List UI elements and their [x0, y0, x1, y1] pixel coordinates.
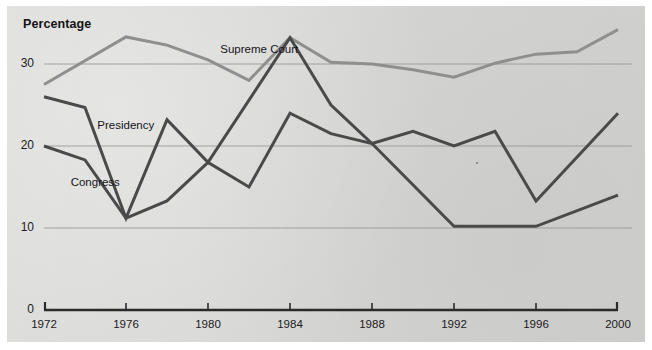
- y-axis-title: Percentage: [23, 17, 91, 31]
- series-line-supreme-court: [44, 30, 618, 85]
- x-axis-tick-label-1984: 1984: [267, 318, 313, 330]
- series-label-congress: Congress: [71, 176, 120, 188]
- y-axis-tick-label-30: 30: [8, 56, 34, 70]
- series-label-supreme-court: Supreme Court: [220, 43, 298, 55]
- x-axis-tick-label-1972: 1972: [21, 318, 67, 330]
- chart-page: Percentage 0102030 197219761980198419881…: [0, 0, 652, 350]
- series-label-presidency: Presidency: [97, 119, 154, 131]
- x-axis-tick-label-1992: 1992: [431, 318, 477, 330]
- y-axis-tick-label-0: 0: [8, 302, 34, 316]
- x-axis-tick-label-1980: 1980: [185, 318, 231, 330]
- scan-speck: [476, 162, 478, 164]
- x-axis-tick-label-1996: 1996: [513, 318, 559, 330]
- x-axis-tick-label-1976: 1976: [103, 318, 149, 330]
- y-axis-tick-label-10: 10: [8, 220, 34, 234]
- x-axis-tick-label-1988: 1988: [349, 318, 395, 330]
- x-axis-tick-label-2000: 2000: [595, 318, 641, 330]
- y-axis-tick-label-20: 20: [8, 138, 34, 152]
